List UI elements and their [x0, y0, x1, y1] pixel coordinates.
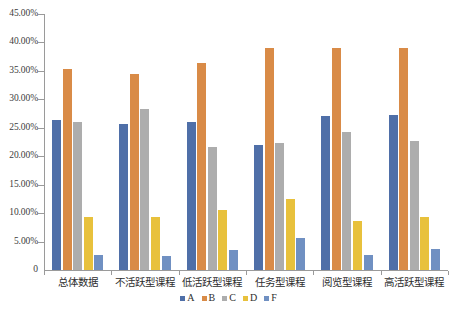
bar-a — [187, 122, 196, 270]
x-axis-tick — [44, 271, 45, 275]
legend-swatch-icon — [264, 296, 269, 301]
x-axis-category-label: 低活跃型课程 — [179, 277, 246, 289]
legend-swatch-icon — [222, 296, 227, 301]
bar-d — [151, 217, 160, 270]
bar-b — [197, 63, 206, 270]
x-axis-tick — [179, 271, 180, 275]
bar-b — [332, 48, 341, 270]
bar-d — [84, 217, 93, 270]
bar-d — [353, 221, 362, 270]
bar-b — [63, 69, 72, 270]
bar-d — [218, 210, 227, 270]
bar-b — [130, 74, 139, 270]
bar-c — [342, 132, 351, 270]
x-axis-category-label: 阅览型课程 — [313, 277, 380, 289]
y-axis-tick-label: 40.00% — [0, 37, 38, 47]
legend-item-a[interactable]: A — [180, 293, 194, 303]
bar-c — [410, 141, 419, 270]
chart-legend: ABCDF — [0, 293, 457, 303]
bar-group — [313, 14, 380, 270]
legend-item-f[interactable]: F — [264, 293, 277, 303]
y-axis-tick-label: 30.00% — [0, 94, 38, 104]
grade-distribution-bar-chart: 45.00%40.00%35.00%30.00%25.00%20.00%15.0… — [0, 0, 457, 315]
x-axis-tick — [448, 271, 449, 275]
bar-a — [119, 124, 128, 270]
legend-label: F — [271, 293, 277, 303]
x-axis-category-label: 任务型课程 — [246, 277, 313, 289]
legend-swatch-icon — [243, 296, 248, 301]
bar-c — [208, 147, 217, 270]
legend-item-b[interactable]: B — [202, 293, 216, 303]
y-axis-tick-label: 35.00% — [0, 66, 38, 76]
bar-group — [246, 14, 313, 270]
x-axis-category-label: 总体数据 — [44, 277, 111, 289]
bar-group — [111, 14, 178, 270]
bar-a — [389, 115, 398, 270]
plot-area — [44, 14, 448, 270]
bar-d — [286, 199, 295, 270]
x-axis-category-label: 高活跃型课程 — [381, 277, 448, 289]
bar-d — [420, 217, 429, 270]
legend-item-c[interactable]: C — [222, 293, 236, 303]
y-axis-labels: 45.00%40.00%35.00%30.00%25.00%20.00%15.0… — [0, 0, 38, 315]
bar-c — [73, 122, 82, 270]
bar-c — [140, 109, 149, 270]
legend-item-d[interactable]: D — [243, 293, 257, 303]
bar-group — [179, 14, 246, 270]
bar-f — [229, 250, 238, 270]
x-axis-tick — [381, 271, 382, 275]
bar-a — [52, 120, 61, 270]
legend-label: D — [250, 293, 257, 303]
bar-f — [364, 255, 373, 270]
legend-label: B — [209, 293, 216, 303]
y-axis-tick-label: 25.00% — [0, 123, 38, 133]
x-axis-tick — [111, 271, 112, 275]
bar-f — [431, 249, 440, 270]
bar-c — [275, 143, 284, 270]
legend-label: C — [229, 293, 236, 303]
y-axis-tick-label: 45.00% — [0, 9, 38, 19]
y-axis-tick-label: 10.00% — [0, 208, 38, 218]
y-axis-tick-label: 5.00% — [0, 237, 38, 247]
bar-group — [381, 14, 448, 270]
legend-label: A — [187, 293, 194, 303]
bar-a — [254, 145, 263, 270]
bar-f — [296, 238, 305, 270]
y-axis-tick-label: 0 — [0, 265, 38, 275]
y-axis-tick-label: 15.00% — [0, 180, 38, 190]
bar-a — [321, 116, 330, 270]
x-axis-tick — [246, 271, 247, 275]
x-axis-tick — [313, 271, 314, 275]
bar-b — [265, 48, 274, 270]
bar-group — [44, 14, 111, 270]
x-axis-category-label: 不活跃型课程 — [111, 277, 178, 289]
legend-swatch-icon — [180, 296, 185, 301]
bar-b — [399, 48, 408, 270]
legend-swatch-icon — [202, 296, 207, 301]
y-axis-tick-label: 20.00% — [0, 151, 38, 161]
bar-f — [94, 255, 103, 270]
bar-f — [162, 256, 171, 270]
